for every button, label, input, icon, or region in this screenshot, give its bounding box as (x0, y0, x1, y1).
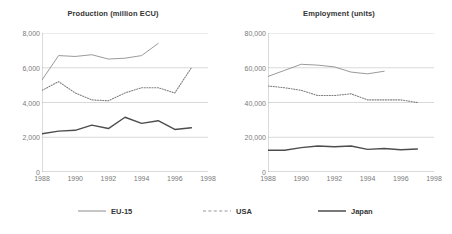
x-tick-label: 1990 (67, 175, 83, 182)
y-tick-label: 2,000 (0, 134, 40, 141)
plot-area-production (42, 33, 208, 172)
legend: EU-15 USA Japan (0, 198, 452, 234)
legend-item-usa: USA (203, 204, 252, 218)
legend-item-japan: Japan (318, 204, 373, 218)
data-series-line-eu-15 (268, 64, 384, 76)
chart-panel-employment: Employment (units) 020,00040,00060,00080… (226, 0, 452, 196)
x-axis-ticks-employment: 198819901992199419961998 (268, 175, 434, 189)
x-tick-label: 1990 (293, 175, 309, 182)
y-axis-ticks-employment: 020,00040,00060,00080,000 (226, 33, 266, 172)
x-tick-label: 1996 (167, 175, 183, 182)
plot-svg-employment (268, 33, 434, 172)
data-series-line-usa (268, 86, 417, 103)
chart-title-production: Production (million ECU) (0, 9, 226, 18)
x-axis-ticks-production: 198819901992199419961998 (42, 175, 208, 189)
legend-label-japan: Japan (351, 207, 373, 216)
figure-two-line-charts: Production (million ECU) 02,0004,0006,00… (0, 0, 452, 234)
plot-svg-production (42, 33, 208, 172)
y-tick-label: 80,000 (226, 30, 266, 37)
y-tick-label: 8,000 (0, 30, 40, 37)
data-series-line-japan (268, 146, 417, 150)
x-tick-label: 1998 (426, 175, 442, 182)
plot-area-employment (268, 33, 434, 172)
x-tick-label: 1988 (260, 175, 276, 182)
y-tick-label: 20,000 (226, 134, 266, 141)
y-tick-label: 40,000 (226, 99, 266, 106)
x-tick-label: 1994 (360, 175, 376, 182)
x-tick-label: 1994 (134, 175, 150, 182)
x-tick-label: 1992 (327, 175, 343, 182)
legend-swatch-eu-15 (78, 207, 106, 215)
y-tick-label: 60,000 (226, 64, 266, 71)
data-series-line-japan (42, 117, 191, 134)
x-tick-label: 1992 (101, 175, 117, 182)
legend-item-eu-15: EU-15 (78, 204, 132, 218)
legend-label-usa: USA (236, 207, 252, 216)
x-tick-label: 1996 (393, 175, 409, 182)
legend-swatch-japan (318, 207, 346, 215)
data-series-line-eu-15 (42, 43, 158, 79)
legend-label-eu-15: EU-15 (111, 207, 132, 216)
y-tick-label: 6,000 (0, 64, 40, 71)
data-series-line-usa (42, 68, 191, 101)
legend-swatch-usa (203, 207, 231, 215)
x-tick-label: 1988 (34, 175, 50, 182)
chart-title-employment: Employment (units) (226, 9, 452, 18)
y-tick-label: 4,000 (0, 99, 40, 106)
x-tick-label: 1998 (200, 175, 216, 182)
y-axis-ticks-production: 02,0004,0006,0008,000 (0, 33, 40, 172)
chart-panel-production: Production (million ECU) 02,0004,0006,00… (0, 0, 226, 196)
